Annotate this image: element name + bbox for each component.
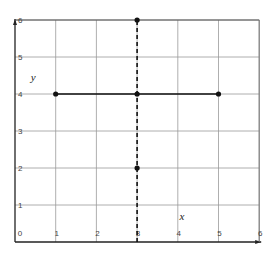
y-tick-label: 1 [18,201,23,210]
x-tick-label: 0 [18,229,23,238]
x-tick-label: 1 [54,229,59,238]
y-axis-label: y [30,71,36,83]
x-axis-arrow-icon [255,240,261,244]
y-tick-label: 5 [18,53,23,62]
x-tick-label: 2 [95,229,100,238]
data-point [135,91,140,96]
x-tick-label: 6 [258,229,263,238]
x-axis-label: x [178,210,184,222]
data-point [216,91,221,96]
data-point [135,17,140,22]
x-tick-label: 4 [177,229,182,238]
y-tick-label: 2 [18,164,23,173]
y-tick-label: 3 [18,127,23,136]
data-point [53,91,58,96]
x-tick-label: 5 [217,229,222,238]
coordinate-plot: 0123456123456yx [0,0,273,255]
y-tick-label: 4 [18,90,23,99]
y-tick-label: 6 [18,16,23,25]
data-point [135,165,140,170]
